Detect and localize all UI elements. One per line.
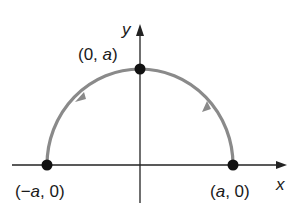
point-left-label: (−a, 0) <box>15 182 65 201</box>
y-axis <box>136 24 144 203</box>
y-axis-arrow-icon <box>136 24 144 36</box>
x-axis <box>12 161 287 169</box>
semicircle-diagram: y x (0, a) (−a, 0) (a, 0) <box>0 0 297 223</box>
x-axis-label: x <box>275 175 285 194</box>
x-axis-arrow-icon <box>276 161 287 169</box>
y-axis-label: y <box>121 20 132 39</box>
point-top-label: (0, a) <box>78 45 118 64</box>
point-left <box>42 160 53 171</box>
point-right-label: (a, 0) <box>210 182 250 201</box>
point-top <box>135 64 146 75</box>
point-right <box>228 160 239 171</box>
